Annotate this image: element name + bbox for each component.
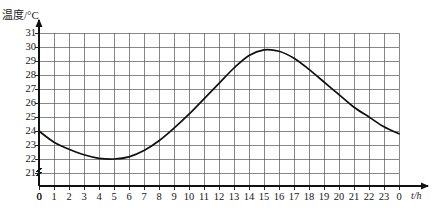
axis-ticks: [35, 34, 400, 191]
temperature-time-chart: 温度/°C t/h 31 30 29 28 27 26 25 24 23 22 …: [0, 0, 435, 220]
temperature-curve: [39, 50, 399, 160]
chart-canvas: [0, 0, 435, 220]
grid-lines: [39, 33, 400, 187]
